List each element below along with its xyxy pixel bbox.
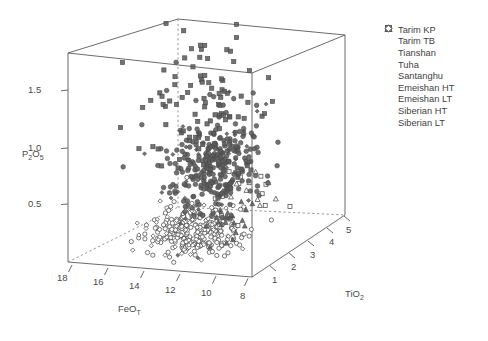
legend-item-santanghu[interactable]: Santanghu	[384, 70, 454, 82]
data-point	[236, 115, 240, 119]
x-axis-title: FeOT	[118, 303, 141, 316]
data-point	[210, 158, 215, 163]
data-point	[212, 142, 216, 146]
legend-item-siberian-ht[interactable]: Siberian HT	[384, 105, 454, 117]
data-point	[239, 199, 244, 204]
data-point	[199, 258, 203, 262]
y-axis-title-sub2: 5	[40, 154, 44, 161]
data-point	[247, 198, 251, 202]
legend-item-tarim-kp[interactable]: Tarim KP	[384, 24, 454, 36]
data-point	[195, 167, 200, 172]
data-point	[206, 56, 210, 60]
data-point	[232, 59, 236, 63]
filled-triangle-icon	[384, 60, 393, 69]
data-point	[232, 172, 237, 177]
data-point	[231, 96, 236, 101]
data-point	[220, 233, 224, 237]
data-point	[237, 129, 242, 134]
data-point	[190, 201, 194, 205]
data-point	[169, 196, 173, 200]
data-point	[129, 239, 133, 243]
y-axis-tick-1: 1.5	[28, 84, 41, 95]
data-point	[222, 89, 226, 93]
open-diamond-icon	[384, 118, 393, 127]
data-point	[175, 148, 180, 153]
legend-item-label: Siberian LT	[398, 118, 445, 128]
data-point	[143, 152, 147, 156]
legend-item-siberian-lt[interactable]: Siberian LT	[384, 117, 454, 129]
data-point	[171, 152, 175, 156]
data-point	[238, 141, 243, 146]
data-point	[229, 186, 233, 190]
data-point	[229, 244, 233, 248]
data-point	[216, 184, 221, 189]
data-point	[161, 185, 166, 190]
data-point	[210, 250, 214, 254]
data-point	[164, 21, 168, 25]
data-point	[202, 203, 206, 207]
data-point	[194, 98, 199, 103]
legend-item-label: Tarim KP	[398, 25, 436, 35]
data-points	[118, 21, 291, 264]
data-point	[236, 186, 241, 191]
data-point	[181, 124, 185, 128]
data-point	[172, 260, 176, 264]
x-axis-tick-3: 14	[129, 280, 140, 291]
data-point	[201, 143, 205, 147]
legend-item-emeishan-lt[interactable]: Emeishan LT	[384, 94, 454, 106]
data-point	[218, 177, 223, 182]
data-point	[167, 255, 171, 259]
data-point	[203, 158, 208, 163]
data-point	[219, 229, 223, 233]
data-point	[184, 223, 188, 227]
data-point	[188, 83, 192, 87]
data-point	[151, 239, 155, 243]
data-point	[198, 55, 202, 59]
data-point	[118, 125, 122, 129]
x-axis-tick-1: 18	[57, 272, 68, 283]
data-point	[211, 131, 216, 136]
data-point	[201, 213, 206, 218]
data-point	[202, 96, 206, 100]
data-point	[228, 142, 232, 146]
data-point	[196, 119, 200, 123]
data-point	[164, 123, 168, 127]
data-point	[242, 156, 247, 161]
legend-item-tianshan[interactable]: Tianshan	[384, 47, 454, 59]
data-point	[183, 56, 187, 60]
data-point	[160, 94, 164, 98]
legend-item-emeishan-ht[interactable]: Emeishan HT	[384, 82, 454, 94]
data-point	[226, 251, 230, 255]
data-point	[188, 145, 193, 150]
data-point	[248, 147, 253, 152]
data-point	[211, 211, 216, 216]
data-point	[213, 113, 217, 117]
data-point	[120, 60, 124, 64]
data-point	[143, 237, 147, 241]
data-point	[182, 29, 186, 33]
x-axis-title-sub: T	[136, 309, 140, 316]
data-point	[156, 147, 160, 151]
data-point	[186, 184, 191, 189]
data-point	[262, 112, 266, 116]
data-point	[207, 241, 211, 245]
data-point	[241, 126, 246, 131]
data-point	[211, 172, 216, 177]
data-point	[208, 168, 212, 172]
data-point	[188, 252, 192, 256]
legend-item-label: Santanghu	[398, 71, 443, 81]
data-point	[186, 90, 190, 94]
legend-item-label: Tarim TB	[398, 36, 435, 46]
data-point	[217, 92, 221, 96]
data-point	[249, 168, 253, 172]
data-point	[205, 122, 209, 126]
legend: Tarim KPTarim TBTianshanTuhaSantanghuEme…	[384, 24, 454, 128]
legend-item-tuha[interactable]: Tuha	[384, 59, 454, 71]
data-point	[234, 22, 238, 26]
legend-item-tarim-tb[interactable]: Tarim TB	[384, 36, 454, 48]
data-point	[169, 204, 173, 208]
data-point	[160, 164, 164, 168]
data-point	[216, 202, 221, 207]
data-point	[232, 148, 237, 153]
data-point	[250, 201, 255, 206]
